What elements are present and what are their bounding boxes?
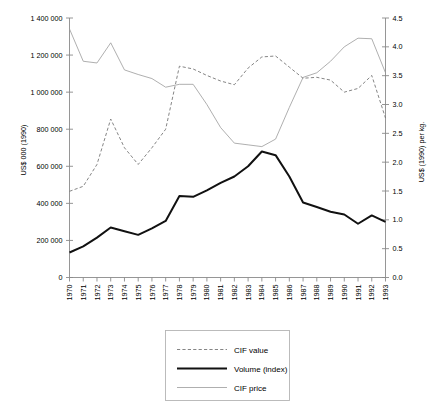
right-tick-label: 4.5 xyxy=(393,14,403,23)
x-tick-label: 1990 xyxy=(340,285,349,301)
left-axis-title: US$ 000 (1990) xyxy=(19,125,28,176)
x-tick-label: 1971 xyxy=(79,285,88,301)
x-tick-label: 1975 xyxy=(134,285,143,301)
x-tick-label: 1992 xyxy=(367,285,376,301)
x-tick-label: 1983 xyxy=(244,285,253,301)
right-tick-label: 3.5 xyxy=(393,71,403,80)
series-line-volume-index xyxy=(70,151,386,252)
x-tick-label: 1972 xyxy=(93,285,102,301)
series-group xyxy=(70,29,386,253)
x-tick-label: 1982 xyxy=(230,285,239,301)
left-tick-label: 600 000 xyxy=(37,162,63,171)
right-tick-label: 0.5 xyxy=(393,244,403,253)
x-tick-label: 1980 xyxy=(202,285,211,301)
right-tick-label: 4.0 xyxy=(393,42,403,51)
right-tick-label: 0.0 xyxy=(393,273,403,282)
chart-figure: 0200 000400 000600 000800 0001 000 0001 … xyxy=(0,0,432,409)
left-tick-label: 400 000 xyxy=(37,199,63,208)
dual-axis-line-chart: 0200 000400 000600 000800 0001 000 0001 … xyxy=(0,0,432,409)
x-tick-label: 1984 xyxy=(257,285,266,301)
x-tick-label: 1973 xyxy=(106,285,115,301)
plot-area: 0200 000400 000600 000800 0001 000 0001 … xyxy=(31,14,403,301)
legend-label-volume-index: Volume (index) xyxy=(234,365,288,374)
x-tick-label: 1981 xyxy=(216,285,225,301)
left-tick-label: 800 000 xyxy=(37,125,63,134)
legend: CIF value Volume (index) CIF price xyxy=(166,331,290,401)
x-tick-label: 1986 xyxy=(285,285,294,301)
x-tick-label: 1977 xyxy=(161,285,170,301)
series-line-cif-value xyxy=(70,56,386,191)
left-tick-label: 200 000 xyxy=(37,236,63,245)
x-tick-label: 1993 xyxy=(381,285,390,301)
x-tick-label: 1985 xyxy=(271,285,280,301)
legend-label-cif-value: CIF value xyxy=(234,346,269,355)
x-tick-label: 1976 xyxy=(148,285,157,301)
x-tick-label: 1988 xyxy=(312,285,321,301)
x-tick-label: 1991 xyxy=(354,285,363,301)
x-axis-tick-labels: 1970197119721973197419751976197719781979… xyxy=(65,285,390,301)
right-tick-label: 2.0 xyxy=(393,158,403,167)
right-tick-label: 1.0 xyxy=(393,215,403,224)
left-tick-label: 1 000 000 xyxy=(31,88,63,97)
x-tick-label: 1974 xyxy=(120,285,129,301)
right-tick-label: 2.5 xyxy=(393,129,403,138)
right-axis-tick-labels: 0.00.51.01.52.02.53.03.54.04.5 xyxy=(393,14,403,283)
x-tick-label: 1978 xyxy=(175,285,184,301)
x-tick-label: 1970 xyxy=(65,285,74,301)
left-axis-tick-labels: 0200 000400 000600 000800 0001 000 0001 … xyxy=(31,14,63,283)
legend-label-cif-price: CIF price xyxy=(234,384,267,393)
x-axis-ticks xyxy=(70,278,386,282)
left-tick-label: 1 200 000 xyxy=(31,51,63,60)
x-tick-label: 1989 xyxy=(326,285,335,301)
right-axis-title: US$ (1990) per kg. xyxy=(417,122,426,183)
x-tick-label: 1987 xyxy=(299,285,308,301)
right-tick-label: 1.5 xyxy=(393,187,403,196)
x-tick-label: 1979 xyxy=(189,285,198,301)
left-tick-label: 1 400 000 xyxy=(31,14,63,23)
right-tick-label: 3.0 xyxy=(393,100,403,109)
left-tick-label: 0 xyxy=(59,273,63,282)
series-line-cif-price xyxy=(70,29,386,147)
